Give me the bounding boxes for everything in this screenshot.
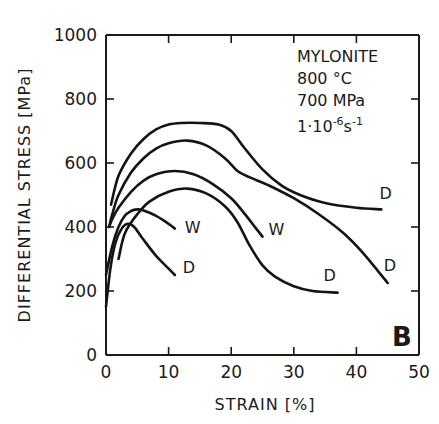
- annotation-pressure: 700 MPa: [297, 91, 365, 110]
- stress-strain-curve-curve-1: [111, 123, 381, 210]
- annotation-strain-rate: 1·10-6s-1: [297, 115, 363, 136]
- stress-strain-curve-curve-6: [106, 224, 175, 307]
- stress-strain-chart: 0102030405002004006008001000 DDWDWD STRA…: [0, 0, 439, 424]
- y-axis-title: DIFFERENTIAL STRESS [MPa]: [15, 68, 34, 323]
- curves: [106, 123, 388, 307]
- y-tick-label: 200: [65, 281, 97, 301]
- curve-end-label: D: [384, 256, 396, 275]
- stress-strain-curve-curve-2: [109, 141, 388, 283]
- x-tick-label: 10: [158, 362, 180, 382]
- x-tick-label: 20: [220, 362, 242, 382]
- experiment-annotation: MYLONITE 800 °C 700 MPa 1·10-6s-1: [297, 47, 378, 136]
- plot-frame: [106, 35, 419, 355]
- y-tick-label: 800: [65, 89, 97, 109]
- y-tick-label: 0: [86, 345, 97, 365]
- curve-end-label: W: [269, 220, 285, 239]
- curve-end-label: W: [185, 218, 201, 237]
- annotation-rock-type: MYLONITE: [297, 47, 378, 66]
- axis-ticks: [106, 35, 419, 355]
- x-tick-label: 0: [101, 362, 112, 382]
- x-tick-label: 40: [346, 362, 368, 382]
- y-tick-label: 400: [65, 217, 97, 237]
- x-tick-label: 30: [283, 362, 305, 382]
- curve-end-label: D: [183, 258, 195, 277]
- y-tick-label: 600: [65, 153, 97, 173]
- panel-letter: B: [392, 322, 412, 352]
- x-tick-label: 50: [408, 362, 430, 382]
- x-axis-title: STRAIN [%]: [215, 395, 316, 414]
- curve-end-label: D: [324, 266, 336, 285]
- curve-end-label: D: [379, 184, 391, 203]
- annotation-temperature: 800 °C: [297, 69, 352, 88]
- y-tick-label: 1000: [54, 25, 97, 45]
